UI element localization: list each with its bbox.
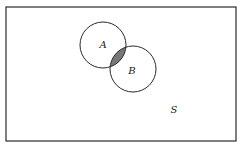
universe-label: S — [171, 104, 178, 115]
set-a-label: A — [98, 39, 106, 50]
set-b-label: B — [127, 65, 135, 76]
venn-diagram: A B S — [0, 0, 241, 147]
universe-rectangle — [6, 7, 236, 141]
